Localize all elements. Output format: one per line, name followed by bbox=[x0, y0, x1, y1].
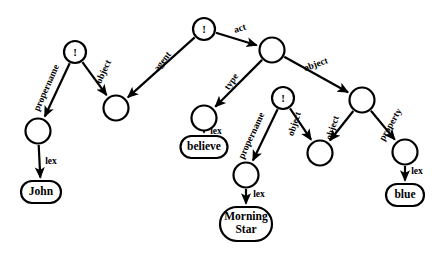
edge-label-lex: lex bbox=[45, 156, 57, 166]
concept-node bbox=[104, 96, 129, 121]
lexical-label: John bbox=[29, 185, 54, 197]
edge-label-propername: propername bbox=[32, 63, 61, 113]
edge-label-act: act bbox=[232, 21, 247, 35]
concept-node bbox=[308, 141, 333, 166]
lexical-label: Morning bbox=[224, 210, 268, 223]
concept-node bbox=[26, 119, 51, 144]
edge-lex bbox=[39, 145, 41, 178]
edge-label-object: object bbox=[324, 114, 341, 141]
concept-node bbox=[393, 140, 418, 165]
concept-node bbox=[260, 38, 285, 63]
node-label: ! bbox=[281, 92, 285, 104]
lexical-box: MorningStar bbox=[220, 207, 272, 241]
edge-type bbox=[215, 60, 262, 107]
lexical-box: blue bbox=[386, 184, 424, 206]
semantic-network-diagram: !!! JohnbelieveMorningStarblue actagento… bbox=[0, 0, 443, 255]
edge-label-propername: propername bbox=[236, 111, 266, 161]
assertion-node: ! bbox=[64, 41, 86, 63]
edge-label-lex: lex bbox=[210, 126, 222, 136]
edges-layer bbox=[39, 33, 405, 204]
edge-label-agent: agent bbox=[152, 49, 174, 73]
edge-label-type: type bbox=[222, 72, 240, 92]
edge-label-object: object bbox=[302, 55, 330, 73]
nodes-layer: !!! bbox=[26, 18, 418, 188]
lexical-label: blue bbox=[394, 188, 415, 200]
edge-label-lex: lex bbox=[253, 189, 265, 199]
concept-node bbox=[234, 163, 259, 188]
assertion-node: ! bbox=[272, 87, 294, 109]
lexical-label: believe bbox=[187, 140, 221, 152]
lexical-box: John bbox=[21, 181, 61, 203]
node-label: ! bbox=[202, 23, 206, 35]
lexical-box: believe bbox=[181, 136, 228, 158]
assertion-node: ! bbox=[193, 18, 215, 40]
lexical-label: Star bbox=[235, 223, 256, 235]
node-label: ! bbox=[73, 46, 77, 58]
diagram-canvas: !!! JohnbelieveMorningStarblue actagento… bbox=[0, 0, 443, 255]
edge-label-object: object bbox=[93, 58, 113, 85]
concept-node bbox=[350, 88, 375, 113]
lex-boxes-layer: JohnbelieveMorningStarblue bbox=[21, 136, 424, 241]
edge-label-lex: lex bbox=[411, 166, 423, 176]
